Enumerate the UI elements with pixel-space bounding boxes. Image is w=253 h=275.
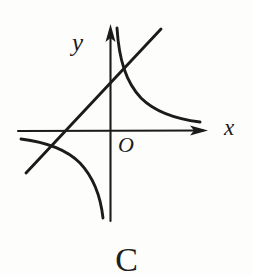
origin-label: O [118, 134, 134, 156]
straight-line-graph [26, 29, 161, 173]
y-axis-label: y [72, 30, 83, 55]
hyperbola-branch-quadrant-i [117, 28, 200, 122]
figure-caption: C [0, 243, 253, 275]
hyperbola-branch-quadrant-iii [21, 139, 103, 218]
x-axis-label: x [224, 116, 234, 139]
